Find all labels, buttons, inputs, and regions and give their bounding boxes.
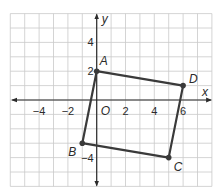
- x-tick-label: 6: [180, 105, 186, 117]
- y-axis-label: y: [101, 12, 109, 26]
- y-tick-label: −4: [81, 152, 94, 164]
- coordinate-plane: xyO−4−224642−4 ADCB: [0, 0, 220, 192]
- vertex-label-d: D: [189, 72, 198, 86]
- vertex-b: [80, 140, 86, 146]
- x-tick-label: −2: [62, 105, 75, 117]
- vertex-label-a: A: [99, 54, 108, 68]
- x-tick-label: 2: [122, 105, 128, 117]
- vertex-label-c: C: [174, 160, 183, 174]
- origin-label: O: [101, 104, 110, 118]
- y-tick-label: 2: [88, 65, 94, 77]
- vertex-d: [180, 83, 186, 89]
- x-tick-label: 4: [151, 105, 157, 117]
- vertex-a: [94, 68, 100, 74]
- vertex-label-b: B: [68, 145, 76, 159]
- y-tick-label: 4: [88, 36, 94, 48]
- x-axis-label: x: [201, 85, 209, 99]
- vertex-c: [166, 155, 172, 161]
- x-tick-label: −4: [33, 105, 46, 117]
